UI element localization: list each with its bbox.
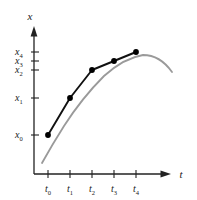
x-axis-arrowhead [161,171,172,178]
sample-point-markers [45,49,139,138]
data-point-4 [133,49,139,55]
data-point-1 [67,95,73,101]
sample-polyline [48,52,136,135]
x-tick-label-0: t0 [45,183,51,196]
x-tick-label-1: t1 [67,183,73,196]
x-tick-label-2: t2 [89,183,95,196]
data-point-0 [45,132,51,138]
y-axis-label: x [27,10,33,22]
y-tick-label-4: x4 [14,46,23,59]
y-tick-labels: x0 x1 x2 x3 x4 [14,46,23,142]
y-tick-label-1: x1 [14,92,23,105]
x-tick-labels: t0 t1 t2 t3 t4 [45,183,140,196]
y-tick-label-0: x0 [14,129,23,142]
x-axis-group [34,170,171,178]
x-tick-label-4: t4 [133,183,140,196]
x-axis-label: t [179,168,183,180]
y-axis-group [31,26,39,174]
y-axis-arrowhead [31,26,38,37]
data-point-2 [89,67,95,73]
x-tick-label-3: t3 [111,183,117,196]
plot-area: x x0 x1 x2 x3 x4 [0,0,197,200]
data-point-3 [111,58,117,64]
smooth-curve [42,55,172,163]
figure-container: x x0 x1 x2 x3 x4 [0,0,197,200]
